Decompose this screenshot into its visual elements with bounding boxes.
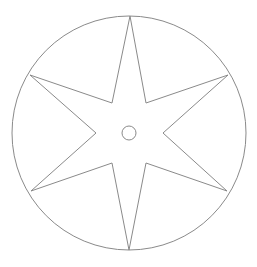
center-circle (122, 126, 136, 140)
star-compass-diagram (0, 0, 257, 267)
six-pointed-star (30, 16, 228, 250)
outer-circle (12, 16, 246, 250)
diagram-canvas (0, 0, 257, 267)
